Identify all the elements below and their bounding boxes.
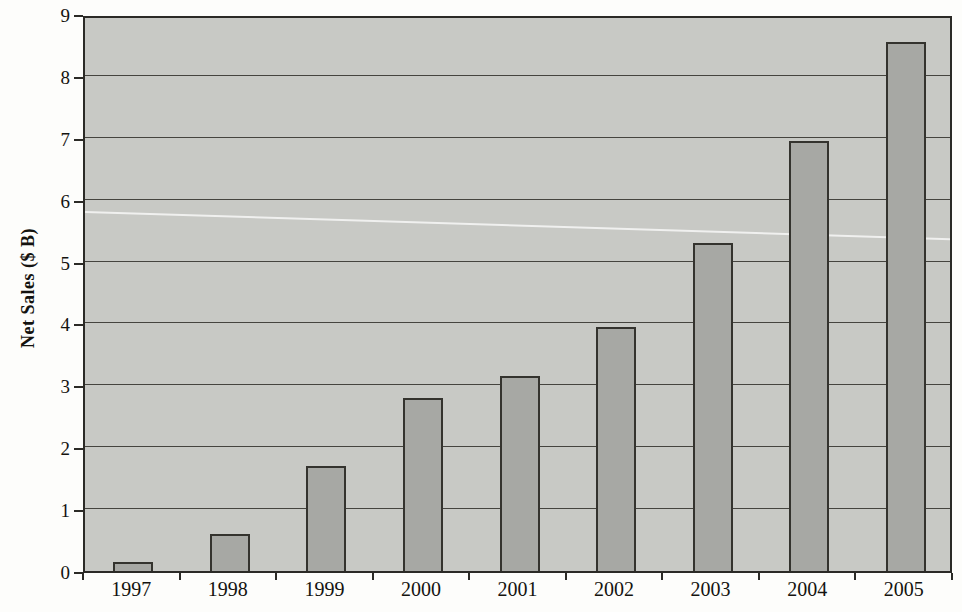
y-tick-mark xyxy=(74,201,83,203)
x-tick-label-1998: 1998 xyxy=(179,577,276,601)
x-tick-label-2003: 2003 xyxy=(662,577,759,601)
y-tick-mark xyxy=(74,448,83,450)
y-tick-label-1: 1 xyxy=(18,499,70,523)
bar-1999 xyxy=(306,466,346,571)
plot-area xyxy=(83,16,952,573)
bar-2005 xyxy=(886,42,926,571)
x-tick-label-2004: 2004 xyxy=(759,577,856,601)
bar-2002 xyxy=(596,327,636,571)
y-tick-label-0: 0 xyxy=(18,561,70,585)
y-tick-label-8: 8 xyxy=(18,66,70,90)
y-tick-label-2: 2 xyxy=(18,437,70,461)
bar-2003 xyxy=(693,243,733,571)
y-tick-mark xyxy=(74,510,83,512)
x-tick-label-2005: 2005 xyxy=(855,577,952,601)
y-tick-label-3: 3 xyxy=(18,375,70,399)
y-tick-mark xyxy=(74,15,83,17)
gridline-8 xyxy=(85,75,950,76)
y-tick-mark xyxy=(74,77,83,79)
bar-2004 xyxy=(789,141,829,571)
x-tick-label-2000: 2000 xyxy=(372,577,469,601)
bar-1997 xyxy=(113,562,153,571)
x-tick-label-1999: 1999 xyxy=(276,577,373,601)
gridline-7 xyxy=(85,137,950,138)
y-tick-label-4: 4 xyxy=(18,313,70,337)
y-tick-label-9: 9 xyxy=(18,4,70,28)
bar-2000 xyxy=(403,398,443,571)
y-tick-mark xyxy=(74,386,83,388)
bar-1998 xyxy=(210,534,250,571)
y-tick-mark xyxy=(74,324,83,326)
y-tick-label-6: 6 xyxy=(18,190,70,214)
x-tick-label-2001: 2001 xyxy=(469,577,566,601)
y-tick-mark xyxy=(74,139,83,141)
y-tick-label-7: 7 xyxy=(18,128,70,152)
x-tick-label-1997: 1997 xyxy=(83,577,180,601)
net-sales-bar-chart: Net Sales ($ B) 0123456789 1997199819992… xyxy=(0,0,962,612)
x-tick-label-2002: 2002 xyxy=(566,577,663,601)
bar-2001 xyxy=(500,376,540,571)
y-tick-mark xyxy=(74,263,83,265)
y-tick-label-5: 5 xyxy=(18,252,70,276)
